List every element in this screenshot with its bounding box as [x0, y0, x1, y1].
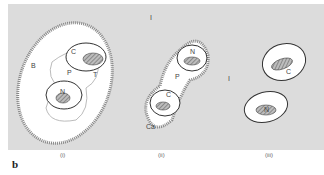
- panel-letter: b: [12, 158, 18, 170]
- label-ii-middle: P: [175, 73, 180, 80]
- label-ii-capsule: Ca: [146, 123, 155, 130]
- diagram-drawing: [0, 0, 324, 175]
- label-i-cell-bottom: N: [60, 88, 65, 95]
- label-i-middle: P: [67, 69, 72, 76]
- label-ii-cell-top: N: [190, 48, 195, 55]
- label-i-tissue: T: [93, 71, 97, 78]
- label-iii-cell-top: C: [286, 68, 291, 75]
- label-i-cell-top: C: [71, 48, 76, 55]
- panel-iii-drawing: [241, 38, 311, 128]
- caption-panel-i: (i): [60, 152, 65, 158]
- label-ii-cell-bottom: C: [166, 91, 171, 98]
- panel-ii-drawing: [146, 41, 208, 127]
- caption-panel-ii: (ii): [158, 152, 165, 158]
- caption-panel-iii: (iii): [265, 152, 273, 158]
- panel-i-drawing: [2, 9, 129, 156]
- label-boundary: B: [31, 62, 36, 69]
- label-iii-interstitial: I: [228, 75, 230, 82]
- label-iii-cell-bottom: N: [264, 106, 269, 113]
- label-interstitial-top: I: [150, 14, 152, 21]
